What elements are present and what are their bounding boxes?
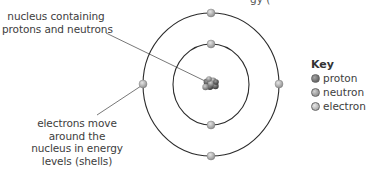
key-title: Key [311,58,366,71]
neutron-icon [311,88,320,97]
proton-icon [311,74,320,83]
nucleus-label-line: protons and neutrons [2,23,110,36]
electron [207,9,215,17]
electrons-label-line: around the [28,130,126,143]
electrons-label-line: levels (shells) [28,155,126,168]
electron [207,40,215,48]
nucleus-label-line: nucleus containing [2,10,110,23]
key-item-proton: proton [311,71,366,85]
key-label: neutron [323,86,364,98]
nucleus [202,76,219,90]
key-label: electron [323,100,366,112]
electron-leader-line [97,86,141,115]
electron [207,152,215,160]
key-item-neutron: neutron [311,85,366,99]
electron [139,80,147,88]
electron-icon [311,102,320,111]
key-label: proton [323,72,357,84]
electron [207,121,215,129]
electron [275,80,283,88]
key-legend: Key proton neutron electron [311,58,366,113]
nucleus-label: nucleus containing protons and neutrons [2,10,110,35]
electrons-label: electrons move around the nucleus in ene… [28,117,126,167]
electrons-label-line: electrons move [28,117,126,130]
nucleus-leader-line [106,33,205,81]
key-item-electron: electron [311,99,366,113]
electrons-label-line: nucleus in energy [28,142,126,155]
